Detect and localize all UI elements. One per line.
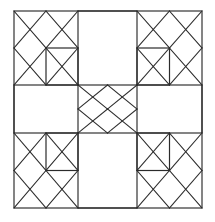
quilt-block-diagram: [0, 0, 215, 222]
figure-canvas: [0, 0, 215, 222]
